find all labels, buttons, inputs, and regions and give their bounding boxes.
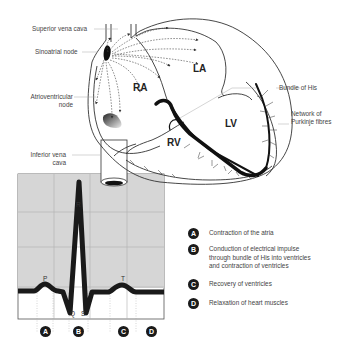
wave-label-r: R: [76, 201, 81, 208]
phase-badge-d: D: [146, 326, 157, 337]
label-sinoatrial-node: Sinoatrial node: [35, 48, 78, 56]
wave-label-q: Q: [70, 310, 75, 317]
phase-badge-b: B: [73, 326, 84, 337]
legend-badge-c: C: [188, 279, 199, 290]
legend-item-b: B Conduction of electrical impulse throu…: [188, 244, 311, 271]
legend-text-a: Contraction of the atria: [209, 229, 274, 238]
legend-badge-b: B: [188, 244, 199, 255]
chamber-left-atrium: LA: [193, 63, 206, 74]
wave-label-s: S: [81, 310, 85, 317]
label-bundle-of-his: Bundle of His: [279, 84, 317, 92]
bundle-of-his: [156, 84, 269, 176]
legend-text-b: Conduction of electrical impulse through…: [209, 245, 311, 271]
phase-badge-c: C: [118, 326, 129, 337]
inferior-vena-cava: [101, 140, 127, 186]
legend-item-d: D Relaxation of heart muscles: [188, 298, 288, 309]
legend-text-d: Relaxation of heart muscles: [209, 299, 288, 308]
label-purkinje-fibres: Network of Purkinje fibres: [291, 110, 332, 125]
legend-badge-a: A: [188, 228, 199, 239]
chamber-left-ventricle: LV: [225, 118, 237, 129]
legend-item-c: C Recovery of ventricles: [188, 279, 272, 290]
wave-label-t: T: [121, 275, 125, 282]
label-atrioventricular-node: Atrioventricular node: [27, 93, 73, 108]
wave-label-p: P: [43, 275, 47, 282]
legend: A Contraction of the atria B Conduction …: [188, 228, 348, 348]
phase-badge-a: A: [40, 326, 51, 337]
label-superior-vena-cava: Superior vena cava: [32, 25, 87, 33]
ecg-panel: [18, 174, 164, 333]
chamber-right-atrium: RA: [133, 82, 147, 93]
heart-conduction-diagram: Superior vena cava Sinoatrial node Atrio…: [0, 0, 352, 350]
legend-text-c: Recovery of ventricles: [209, 280, 272, 289]
legend-badge-d: D: [188, 298, 199, 309]
chamber-right-ventricle: RV: [167, 137, 181, 148]
label-inferior-vena-cava: Inferior vena cava: [26, 151, 66, 166]
purkinje-network: [130, 90, 277, 179]
legend-item-a: A Contraction of the atria: [188, 228, 274, 239]
